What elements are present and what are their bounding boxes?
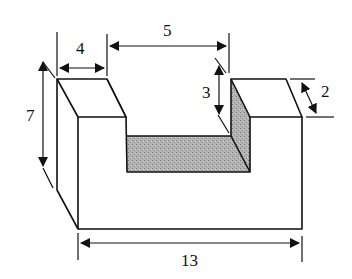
u-block-drawing (0, 0, 352, 279)
dim-label-total-length: 13 (181, 252, 198, 269)
dim-label-slot-width: 5 (163, 22, 172, 39)
diagram-canvas: 4 5 3 2 7 13 (0, 0, 352, 279)
dim-label-height: 7 (26, 107, 35, 124)
dim-label-block-depth: 2 (321, 83, 330, 100)
dim-label-slot-depth: 3 (202, 84, 211, 101)
dim-label-left-block-width: 4 (76, 40, 85, 57)
